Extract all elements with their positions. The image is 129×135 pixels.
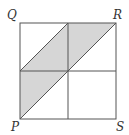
label-P: P (10, 120, 20, 134)
geometry-diagram: Q R P S (0, 0, 129, 135)
label-R: R (112, 8, 122, 22)
label-S: S (116, 120, 124, 134)
label-Q: Q (7, 8, 17, 22)
